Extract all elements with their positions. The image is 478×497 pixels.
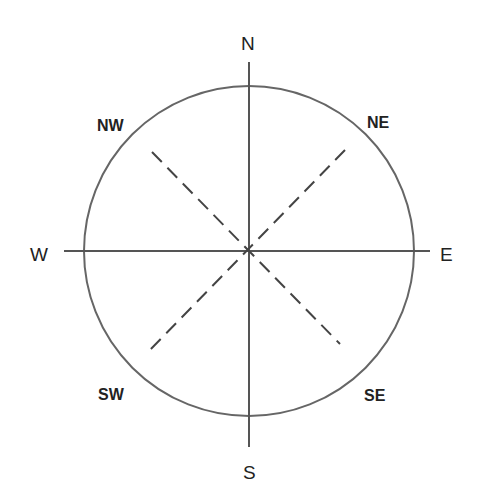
compass-diagram: N E S W NW NE SW SE	[0, 0, 478, 497]
label-southwest: SW	[98, 386, 125, 403]
label-south: S	[243, 462, 256, 483]
nw-se-dashed-axis	[152, 152, 340, 344]
label-northeast: NE	[367, 114, 390, 131]
label-northwest: NW	[97, 117, 125, 134]
label-west: W	[30, 244, 48, 265]
label-east: E	[440, 244, 453, 265]
label-north: N	[241, 33, 255, 54]
label-southeast: SE	[364, 387, 386, 404]
